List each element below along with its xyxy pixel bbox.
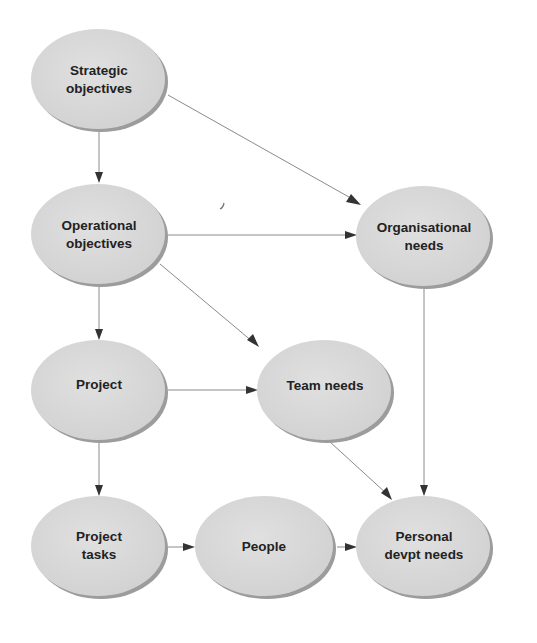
arrowhead-icon xyxy=(95,172,103,183)
node-label: People xyxy=(242,539,287,554)
node-label: Project xyxy=(76,529,122,544)
node-label: Operational xyxy=(61,218,136,233)
node-people: People xyxy=(195,496,336,599)
node-label: tasks xyxy=(82,547,117,562)
node-strategic-objectives: Strategic objectives xyxy=(31,29,168,132)
stray-mark xyxy=(220,203,224,209)
flow-diagram: Strategic objectives Operational objecti… xyxy=(0,0,537,643)
node-label: devpt needs xyxy=(385,547,464,562)
node-label: Personal xyxy=(395,529,452,544)
arrowhead-icon xyxy=(183,543,195,551)
node-organisational-needs: Organisational needs xyxy=(356,186,493,289)
edge-team-personal xyxy=(330,442,387,494)
node-operational-objectives: Operational objectives xyxy=(31,184,168,287)
node-project: Project xyxy=(31,340,168,443)
node-label: needs xyxy=(404,238,443,253)
node-label: Project xyxy=(76,377,122,392)
node-label: Organisational xyxy=(377,220,472,235)
edge-strategic-organisational xyxy=(168,95,356,201)
arrowhead-icon xyxy=(247,334,259,347)
arrowhead-icon xyxy=(95,485,103,496)
arrowhead-icon xyxy=(381,487,392,500)
arrowhead-icon xyxy=(345,543,357,551)
node-project-tasks: Project tasks xyxy=(31,496,168,599)
edges xyxy=(95,95,428,551)
edge-operational-team xyxy=(160,264,253,342)
arrowhead-icon xyxy=(345,231,357,239)
node-label: Strategic xyxy=(70,63,128,78)
node-personal-devpt-needs: Personal devpt needs xyxy=(356,496,493,599)
arrowhead-icon xyxy=(346,194,361,205)
arrowhead-icon xyxy=(420,485,428,496)
arrowhead-icon xyxy=(246,386,258,394)
node-label: Team needs xyxy=(286,378,363,393)
node-team-needs: Team needs xyxy=(257,340,394,443)
node-label: objectives xyxy=(66,236,132,251)
arrowhead-icon xyxy=(95,329,103,340)
node-label: objectives xyxy=(66,81,132,96)
